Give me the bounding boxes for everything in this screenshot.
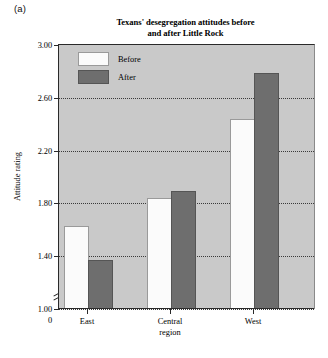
legend-swatch-after-icon (78, 70, 109, 84)
x-axis-tick-label-line: Central (158, 317, 183, 326)
x-axis-tick (87, 308, 88, 314)
x-axis-tick-label: Centralregion (158, 317, 183, 338)
y-axis-tick-label: 1.40 (38, 252, 52, 261)
bar-east-before[interactable] (64, 226, 89, 309)
x-axis-tick-label: East (80, 317, 94, 328)
bar-central-after[interactable] (171, 191, 196, 309)
y-axis-origin-label: 0 (48, 316, 52, 325)
bar-west-after[interactable] (254, 73, 279, 309)
y-axis-tick (54, 98, 59, 99)
legend-label-after: After (118, 73, 136, 82)
x-axis-tick-label-line: region (158, 328, 183, 339)
bar-west-before[interactable] (230, 119, 255, 309)
bar-east-after[interactable] (88, 260, 113, 309)
y-axis-tick (54, 45, 59, 46)
chart-title-line-1: Texans' desegregation attitudes before (58, 17, 313, 28)
y-axis-tick-label: 2.20 (38, 146, 52, 155)
chart-title: Texans' desegregation attitudes before a… (58, 17, 313, 38)
y-axis-tick-label: 3.00 (38, 41, 52, 50)
y-axis-tick (54, 151, 59, 152)
gridline (59, 309, 314, 310)
legend-label-before: Before (118, 55, 141, 64)
y-axis-tick-label: 2.60 (38, 93, 52, 102)
y-axis-title: Attitude rating (11, 44, 25, 308)
legend-item-after: After (78, 70, 198, 84)
chart-title-line-2: and after Little Rock (58, 28, 313, 39)
chart-legend: Before After (78, 52, 198, 88)
x-axis-tick (253, 308, 254, 314)
bar-central-before[interactable] (147, 198, 172, 309)
y-axis-tick-label: 1.00 (38, 305, 52, 314)
y-axis-tick-label: 1.80 (38, 199, 52, 208)
y-axis-tick (54, 309, 59, 310)
x-axis-tick-label-line: West (245, 317, 262, 326)
x-axis-line (58, 308, 314, 309)
y-axis-tick (54, 256, 59, 257)
x-axis-tick-label: West (245, 317, 262, 328)
panel-label: (a) (14, 3, 26, 14)
bar-group (230, 45, 278, 309)
plot-area: 1.001.401.802.202.603.000 Before After (58, 44, 315, 309)
x-axis-tick-label-line: East (80, 317, 94, 326)
legend-item-before: Before (78, 52, 198, 66)
legend-swatch-before-icon (78, 52, 109, 66)
y-axis-tick (54, 203, 59, 204)
x-axis-tick (170, 308, 171, 314)
y-axis-title-label: Attitude rating (14, 151, 23, 200)
